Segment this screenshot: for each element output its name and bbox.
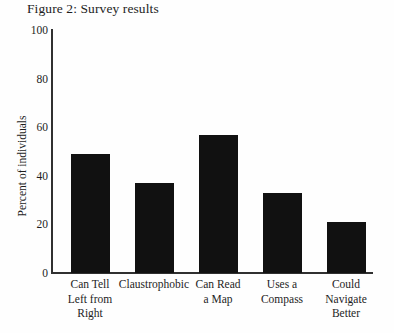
y-axis-tick-label: 100 (2, 24, 48, 36)
category-label-line: Can Read (181, 277, 255, 292)
category-label-line: Navigate (309, 292, 383, 307)
x-axis-category-label: Can Reada Map (181, 277, 255, 306)
category-label-line: a Map (181, 292, 255, 307)
category-label-line: Better (309, 306, 383, 321)
category-label-line: Could (309, 277, 383, 292)
bars-layer (52, 30, 372, 273)
x-axis-category-label: Claustrophobic (117, 277, 191, 292)
x-axis-category-label: Can TellLeft fromRight (53, 277, 127, 321)
y-axis-tick-label: 80 (2, 73, 48, 85)
category-label-line: Can Tell (53, 277, 127, 292)
y-axis-tick-label: 40 (2, 170, 48, 182)
x-axis-category-label: CouldNavigateBetter (309, 277, 383, 321)
y-axis-tick-label: 60 (2, 121, 48, 133)
y-axis-tick-label: 0 (2, 267, 48, 279)
bar (199, 135, 238, 274)
category-label-line: Compass (245, 292, 319, 307)
bar (71, 154, 110, 273)
y-axis-tick-label: 20 (2, 218, 48, 230)
category-label-line: Uses a (245, 277, 319, 292)
bar (327, 222, 366, 273)
bar (263, 193, 302, 273)
category-label-line: Right (53, 306, 127, 321)
figure-container: Figure 2: Survey results Percent of indi… (0, 0, 394, 333)
x-axis-category-labels: Can TellLeft fromRightClaustrophobicCan … (52, 277, 373, 333)
category-label-line: Left from (53, 292, 127, 307)
x-axis-category-label: Uses aCompass (245, 277, 319, 306)
bar (135, 183, 174, 273)
y-axis-tick-labels: 020406080100 (0, 0, 48, 333)
category-label-line: Claustrophobic (117, 277, 191, 292)
